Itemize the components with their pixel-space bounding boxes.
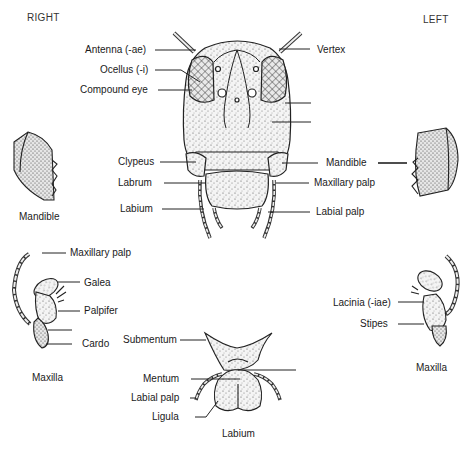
caption-right-mandible: Mandible — [19, 211, 60, 222]
label-maxillary-palp: Maxillary palp — [314, 177, 375, 189]
label-palpifer: Palpifer — [84, 305, 118, 317]
left-maxilla-drawing — [411, 256, 458, 346]
caption-left-maxilla: Maxilla — [416, 362, 447, 373]
right-mandible-drawing — [14, 132, 57, 200]
caption-right-maxilla: Maxilla — [32, 372, 63, 383]
left-maxilla-leaders — [398, 302, 424, 324]
antenna-left — [174, 33, 194, 52]
label-maxilla-maxillary-palp: Maxillary palp — [70, 247, 131, 259]
label-ligula: Ligula — [152, 411, 179, 423]
diagram-drawing — [0, 0, 470, 451]
label-antenna: Antenna (-ae) — [85, 44, 146, 56]
label-lacinia: Lacinia (-iae) — [333, 297, 391, 309]
label-compound-eye: Compound eye — [80, 84, 148, 96]
label-submentum: Submentum — [123, 334, 177, 346]
orientation-right-label: RIGHT — [27, 12, 60, 23]
label-galea: Galea — [84, 277, 111, 289]
label-mandible: Mandible — [326, 157, 367, 169]
label-vertex: Vertex — [317, 44, 345, 56]
caption-labium: Labium — [222, 428, 255, 439]
label-labial-palp-labium: Labial palp — [131, 392, 179, 404]
left-mandible-drawing — [412, 128, 458, 196]
label-clypeus: Clypeus — [118, 156, 154, 168]
right-maxilla-drawing — [14, 254, 66, 348]
label-stipes: Stipes — [360, 318, 388, 330]
head-drawing — [174, 33, 301, 238]
label-cardo: Cardo — [82, 338, 109, 350]
label-labial-palp: Labial palp — [316, 206, 364, 218]
label-labrum: Labrum — [118, 177, 152, 189]
labium-drawing — [196, 333, 280, 411]
orientation-left-label: LEFT — [423, 14, 449, 25]
label-labium: Labium — [120, 203, 153, 215]
label-ocellus: Ocellus (-i) — [100, 64, 148, 76]
label-mentum: Mentum — [143, 373, 179, 385]
